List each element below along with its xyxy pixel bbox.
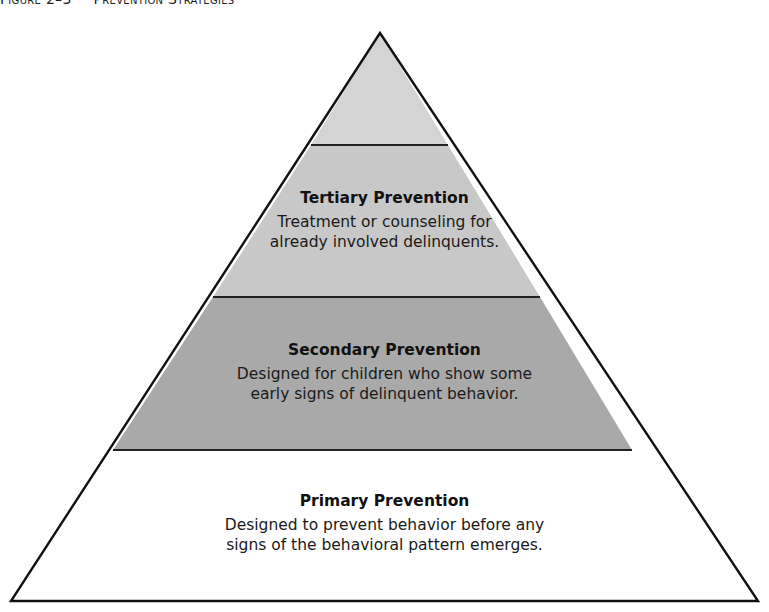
tier-title: Primary Prevention xyxy=(0,491,769,511)
tier-title: Secondary Prevention xyxy=(0,340,769,360)
tier-description: Designed for children who show some earl… xyxy=(0,364,769,404)
tier-secondary: Secondary Prevention Designed for childr… xyxy=(0,340,769,404)
tier-tertiary: Tertiary Prevention Treatment or counsel… xyxy=(0,188,769,252)
tier-primary: Primary Prevention Designed to prevent b… xyxy=(0,491,769,555)
pyramid-apex-band xyxy=(311,33,448,145)
tier-title: Tertiary Prevention xyxy=(0,188,769,208)
tier-description: Designed to prevent behavior before any … xyxy=(0,515,769,555)
tier-description: Treatment or counseling for already invo… xyxy=(0,212,769,252)
